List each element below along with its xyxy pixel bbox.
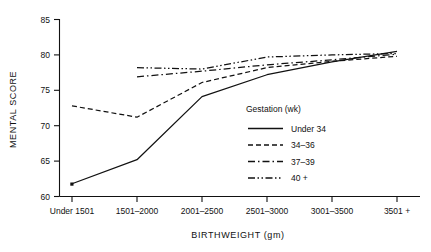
y-axis-title: MENTAL SCORE bbox=[8, 71, 18, 148]
x-tick-label-3: 2501–3000 bbox=[246, 206, 289, 216]
y-tick-label-70: 70 bbox=[41, 121, 51, 131]
legend-label-under-34: Under 34 bbox=[291, 124, 326, 134]
legend-label-37-39: 37–39 bbox=[291, 157, 315, 167]
x-axis-ticks bbox=[72, 197, 397, 203]
legend-title: Gestation (wk) bbox=[246, 104, 301, 114]
x-tick-label-0: Under 1501 bbox=[50, 206, 95, 216]
legend-label-40-plus: 40 + bbox=[291, 173, 308, 183]
series-line-34-36 bbox=[72, 56, 397, 117]
series-line-under-34 bbox=[72, 51, 397, 183]
y-tick-label-60: 60 bbox=[41, 192, 51, 202]
y-axis-ticks bbox=[54, 20, 60, 197]
series-group bbox=[72, 51, 397, 183]
y-tick-label-75: 75 bbox=[41, 85, 51, 95]
x-tick-label-1: 1501–2000 bbox=[116, 206, 159, 216]
data-point-marker bbox=[70, 183, 73, 186]
y-tick-label-85: 85 bbox=[41, 15, 51, 25]
x-tick-label-4: 3001–3500 bbox=[311, 206, 354, 216]
y-tick-label-65: 65 bbox=[41, 156, 51, 166]
x-tick-label-2: 2001–2500 bbox=[181, 206, 224, 216]
series-line-40-plus bbox=[137, 53, 397, 69]
legend-label-34-36: 34–36 bbox=[291, 140, 315, 150]
legend: Gestation (wk) Under 34 34–36 37–39 40 + bbox=[246, 104, 326, 183]
x-tick-label-5: 3501 + bbox=[384, 206, 410, 216]
x-axis-title: BIRTHWEIGHT (gm) bbox=[191, 230, 284, 240]
y-tick-label-80: 80 bbox=[41, 50, 51, 60]
line-chart: MENTAL SCORE 85 80 75 70 65 60 bbox=[0, 0, 431, 252]
series-line-37-39 bbox=[137, 54, 397, 77]
figure-container: MENTAL SCORE 85 80 75 70 65 60 bbox=[0, 0, 431, 252]
